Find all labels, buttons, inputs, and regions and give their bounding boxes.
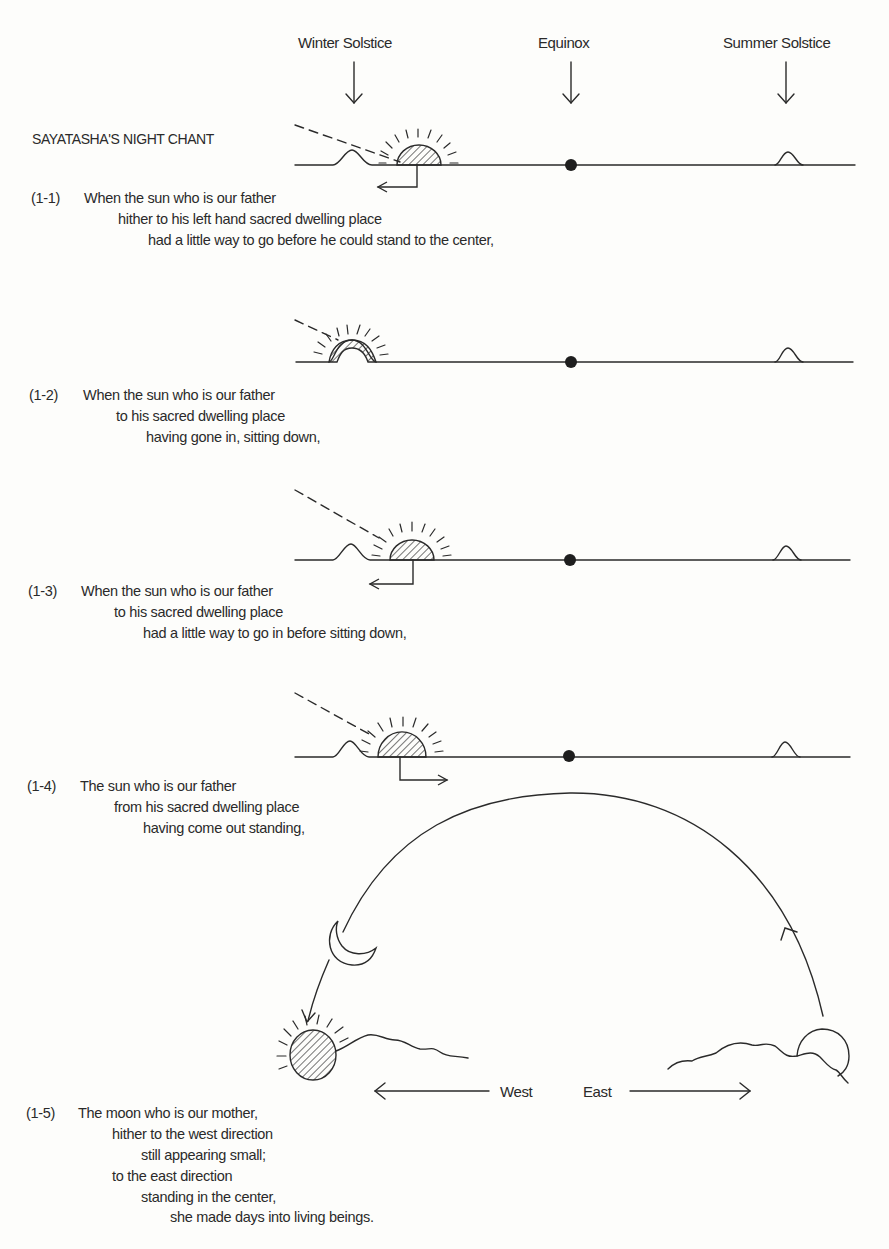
equinox-dot: [564, 554, 576, 566]
verse-number: (1-3): [28, 584, 57, 599]
verse-line: to the east direction: [112, 1169, 232, 1184]
equinox-arrow: [563, 62, 579, 103]
setting-sun-icon: [277, 1015, 348, 1080]
east-hills: [668, 1043, 848, 1083]
equinox-dot: [563, 750, 575, 762]
verse-line: having gone in, sitting down,: [146, 430, 320, 445]
summer-solstice-label: Summer Solstice: [723, 35, 830, 50]
verse-line: When the sun who is our father: [81, 584, 273, 599]
verse-line: The moon who is our mother,: [78, 1106, 258, 1121]
direction-arrow-left: [378, 165, 417, 187]
horizon-diagram-2: [295, 320, 853, 368]
sun-rising-icon: [360, 717, 443, 757]
crescent-moon-icon: [330, 921, 376, 965]
verse-line: When the sun who is our father: [84, 191, 276, 206]
winter-solstice-arrow: [346, 62, 362, 103]
verse-line: The sun who is our father: [80, 779, 236, 794]
equinox-dot: [565, 356, 577, 368]
summer-solstice-arrow: [778, 62, 794, 103]
west-label: West: [500, 1084, 532, 1099]
verse-line: hither to his left hand sacred dwelling …: [118, 212, 382, 227]
chant-title: SAYATASHA'S NIGHT CHANT: [32, 131, 214, 147]
verse-line: hither to the west direction: [112, 1127, 273, 1142]
horizon-diagram-4: [295, 693, 850, 780]
verse-line: she made days into living beings.: [170, 1210, 374, 1225]
verse-number: (1-1): [31, 191, 60, 206]
horizon-diagram-1: [295, 125, 855, 187]
winter-solstice-label: Winter Solstice: [298, 35, 392, 50]
verse-line: had a little way to go before he could s…: [148, 233, 494, 248]
verse-line: to his sacred dwelling place: [114, 605, 283, 620]
verse-number: (1-5): [26, 1106, 55, 1121]
sun-setting-icon: [314, 325, 388, 362]
east-arrow: [630, 1083, 750, 1099]
verse-line: from his sacred dwelling place: [114, 800, 299, 815]
solar-horizon-diagram: [0, 0, 889, 1249]
direction-arrow-left: [370, 560, 413, 584]
verse-line: standing in the center,: [141, 1190, 276, 1205]
verse-line: had a little way to go in before sitting…: [143, 626, 406, 641]
verse-number: (1-4): [27, 779, 56, 794]
verse-line: having come out standing,: [143, 821, 305, 836]
sun-icon: [372, 522, 451, 560]
moon-path-diagram: [277, 793, 849, 1099]
direction-arrow-right: [400, 757, 447, 780]
verse-line: still appearing small;: [141, 1148, 266, 1163]
east-label: East: [583, 1084, 611, 1099]
rising-moon-icon: [797, 1029, 849, 1076]
equinox-dot: [565, 159, 577, 171]
horizon-diagram-3: [295, 490, 850, 584]
equinox-label: Equinox: [538, 35, 589, 50]
west-hills: [336, 1035, 468, 1058]
sky-arc: [343, 793, 823, 1016]
sky-arc-west: [308, 960, 329, 1021]
verse-line: to his sacred dwelling place: [116, 409, 285, 424]
verse-number: (1-2): [29, 388, 58, 403]
west-arrow: [375, 1083, 489, 1099]
verse-line: When the sun who is our father: [83, 388, 275, 403]
sun-icon: [379, 129, 458, 165]
